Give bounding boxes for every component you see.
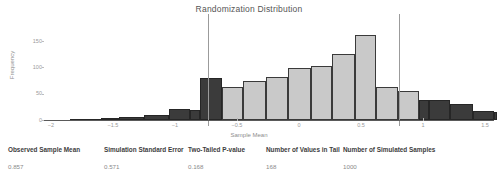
stat-column: Number of Simulated Samples1000 (343, 146, 435, 170)
stat-column: Number of Values in Tail168 (266, 146, 340, 170)
histogram-bar (190, 110, 200, 120)
y-axis-tick-label: 50 (16, 90, 42, 96)
upper-bound-line (399, 14, 400, 126)
x-axis-tick-label: −1.5 (108, 122, 119, 128)
histogram-bar (473, 111, 494, 120)
x-axis-title: Sample Mean (0, 132, 498, 138)
summary-statistics-row: Observed Sample Mean0.857Simulation Stan… (0, 146, 498, 187)
randomization-distribution-panel: Randomization Distribution Frequency 050… (0, 0, 498, 187)
stat-value: 1000 (343, 163, 435, 170)
plot-area: Frequency 050100150 −2−1.5−1−0.500.511.5… (0, 0, 498, 143)
stat-column: Two-Tailed P-value0.168 (188, 146, 245, 170)
histogram-bar (332, 54, 354, 120)
x-axis-tick-label: −1 (172, 122, 178, 128)
y-axis-tick-mark (42, 41, 44, 42)
x-axis-tick-label: −0.5 (232, 122, 243, 128)
stat-label: Observed Sample Mean (8, 146, 80, 153)
histogram-bar (243, 81, 265, 120)
stat-column: Observed Sample Mean0.857 (8, 146, 80, 170)
histogram-bar (429, 100, 450, 120)
stat-label: Number of Values in Tail (266, 146, 340, 153)
x-axis-tick-label: 0 (297, 122, 300, 128)
stat-label: Number of Simulated Samples (343, 146, 435, 153)
x-axis-tick-mark (423, 118, 424, 121)
histogram-bar (450, 104, 472, 120)
histogram-bar (222, 87, 243, 120)
y-axis-tick-label: 0 (16, 117, 42, 123)
y-axis-ticks: 050100150 (12, 0, 42, 143)
histogram-bar (419, 100, 429, 120)
histogram-bar (169, 109, 190, 120)
stat-value: 0.168 (188, 163, 245, 170)
histogram-bar (200, 78, 222, 120)
stat-value: 0.857 (8, 163, 80, 170)
lower-bound-line (208, 14, 209, 126)
histogram-bar (311, 66, 332, 120)
stat-value: 168 (266, 163, 340, 170)
x-axis-tick-label: 1 (421, 122, 424, 128)
chart-container: Randomization Distribution Frequency 050… (0, 0, 498, 143)
histogram-bar (266, 77, 288, 120)
histogram-bar (355, 35, 376, 120)
histogram-bar (376, 87, 398, 120)
x-axis-line (44, 120, 494, 121)
stat-value: 0.571 (104, 163, 184, 170)
x-axis-tick-mark (237, 118, 238, 121)
stat-label: Two-Tailed P-value (188, 146, 245, 153)
y-axis-tick-label: 100 (16, 64, 42, 70)
x-axis-tick-label: −2 (48, 122, 54, 128)
histogram-bar (494, 112, 498, 120)
histogram-bar (288, 68, 312, 120)
y-axis-tick-label: 150 (16, 38, 42, 44)
histogram-bar (398, 91, 419, 120)
y-axis-tick-mark (42, 67, 44, 68)
y-axis-tick-mark (42, 94, 44, 95)
x-axis-tick-label: 0.5 (357, 122, 365, 128)
stat-label: Simulation Standard Error (104, 146, 184, 153)
stat-column: Simulation Standard Error0.571 (104, 146, 184, 170)
x-axis-tick-label: 1.5 (481, 122, 489, 128)
